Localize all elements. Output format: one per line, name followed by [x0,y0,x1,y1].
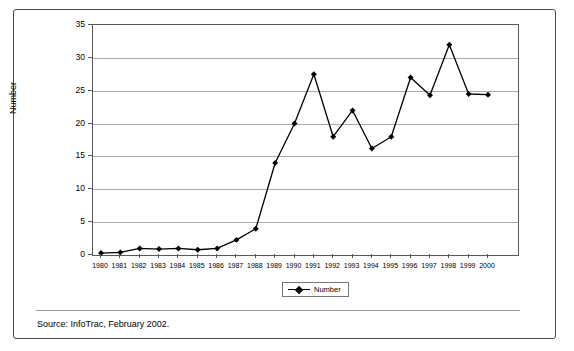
data-point-marker [311,71,317,77]
y-tick-label: 10 [59,184,85,193]
x-tick-mark [216,254,217,258]
x-tick-mark [332,254,333,258]
data-point-marker [485,92,491,98]
x-tick-mark [139,254,140,258]
chart-legend: Number [282,282,349,297]
x-tick-mark [390,254,391,258]
diamond-marker-icon [288,286,310,294]
source-note: Source: InfoTrac, February 2002. [37,319,169,329]
data-point-marker [117,249,123,255]
y-axis-title: Number [8,82,18,114]
y-tick-label: 35 [59,20,85,29]
data-point-marker [233,237,239,243]
y-tick-label: 20 [59,119,85,128]
x-tick-mark [100,254,101,258]
data-point-marker [369,146,375,152]
data-point-marker [156,246,162,252]
data-point-marker [466,91,472,97]
y-tick-label: 5 [59,217,85,226]
plot-area [92,24,519,256]
data-point-marker [446,42,452,48]
x-tick-mark [487,254,488,258]
data-point-marker [292,121,298,127]
data-point-marker [98,250,104,256]
x-tick-mark [371,254,372,258]
x-tick-mark [177,254,178,258]
x-tick-mark [197,254,198,258]
x-tick-mark [313,254,314,258]
chart-region: Number 05101520253035 198019811982198319… [14,10,557,295]
source-divider [36,310,520,311]
x-tick-mark [274,254,275,258]
y-tick-label: 15 [59,151,85,160]
data-point-marker [214,245,220,251]
x-tick-label: 2000 [472,262,502,269]
x-tick-mark [410,254,411,258]
x-tick-mark [352,254,353,258]
y-tick-label: 25 [59,86,85,95]
x-tick-mark [429,254,430,258]
x-tick-mark [119,254,120,258]
data-point-marker [137,245,143,251]
x-tick-mark [255,254,256,258]
y-tick-label: 0 [59,250,85,259]
data-point-marker [195,247,201,253]
data-point-marker [175,245,181,251]
data-point-marker [272,160,278,166]
data-point-marker [388,134,394,140]
data-point-marker [253,226,259,232]
figure-frame: Number 05101520253035 198019811982198319… [13,9,556,339]
x-tick-mark [448,254,449,258]
y-tick-label: 30 [59,53,85,62]
x-tick-mark [158,254,159,258]
x-tick-mark [294,254,295,258]
x-tick-mark [235,254,236,258]
data-series-number [93,25,518,255]
x-tick-mark [468,254,469,258]
legend-entry-label: Number [314,285,341,294]
